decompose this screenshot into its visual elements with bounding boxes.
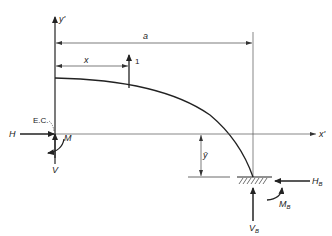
moment-M-label: M	[64, 133, 72, 143]
force-HB-label: HB	[312, 176, 323, 187]
y-bar-dimension	[188, 135, 230, 177]
force-VB-label: VB	[249, 223, 259, 234]
diagram-canvas: y' a x 1 x' E.C. H V M ȳ	[0, 0, 332, 236]
moment-M-arrow	[48, 139, 64, 153]
y-bar-label: ȳ	[202, 150, 208, 160]
y-axis-label: y'	[58, 14, 66, 24]
elastic-center-leader	[49, 121, 54, 131]
moment-MB-label: MB	[279, 199, 291, 210]
x-axis-label: x'	[318, 129, 326, 139]
load-distance-label: x	[83, 55, 89, 65]
span-label: a	[143, 31, 148, 41]
elastic-center-label: E.C.	[33, 116, 49, 125]
force-H-label: H	[9, 129, 16, 139]
force-V-label: V	[52, 165, 59, 175]
fixed-support	[237, 177, 272, 184]
unit-load-label: 1	[135, 57, 140, 66]
curved-member	[55, 78, 253, 177]
